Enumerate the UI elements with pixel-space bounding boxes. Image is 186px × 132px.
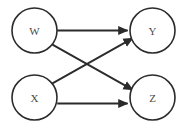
edge-w-to-z	[52, 44, 133, 90]
node-w: W	[12, 8, 57, 53]
node-x-label: X	[31, 92, 39, 104]
node-x: X	[12, 75, 57, 120]
edge-layer	[52, 31, 133, 104]
node-z: Z	[130, 75, 175, 120]
graph-diagram: W Y X Z	[0, 0, 186, 132]
node-z-label: Z	[149, 92, 156, 104]
graph-canvas: W Y X Z	[0, 0, 186, 132]
node-w-label: W	[29, 25, 40, 37]
edge-x-to-y	[52, 38, 133, 84]
node-y: Y	[130, 8, 175, 53]
node-y-label: Y	[149, 25, 157, 37]
